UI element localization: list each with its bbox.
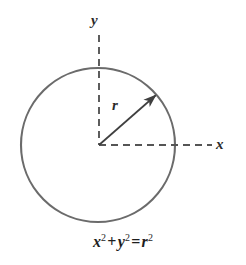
equation-caption: x2+y2=r2 bbox=[0, 234, 246, 250]
circle-figure: y x r x2+y2=r2 bbox=[0, 0, 246, 265]
equation-term-x: x bbox=[93, 233, 101, 250]
equation-exponent-r: 2 bbox=[148, 232, 153, 243]
equation-plus-operator: + bbox=[106, 233, 117, 250]
x-axis-label: x bbox=[216, 137, 224, 152]
y-axis-label: y bbox=[91, 13, 98, 28]
equation-equals-operator: = bbox=[130, 233, 141, 250]
figure-canvas bbox=[0, 0, 246, 265]
equation-term-y: y bbox=[118, 233, 125, 250]
radius-label: r bbox=[112, 98, 118, 113]
radius-arrow bbox=[99, 96, 156, 146]
